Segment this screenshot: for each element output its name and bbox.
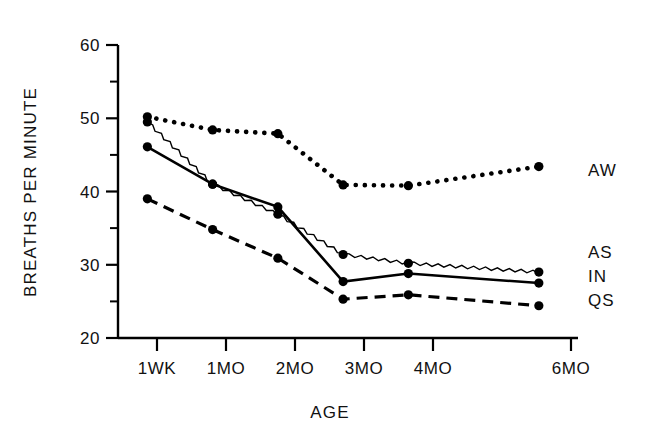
data-point — [534, 301, 543, 310]
data-point — [143, 142, 152, 151]
chart-figure: BREATHS PER MINUTE AGE 60 50 40 30 20 — [0, 0, 650, 441]
y-tick-label-40: 40 — [80, 183, 100, 202]
data-point — [208, 225, 217, 234]
data-point — [404, 259, 413, 268]
y-axis-title: BREATHS PER MINUTE — [21, 87, 40, 297]
data-point — [534, 162, 543, 171]
x-tick-label-1wk: 1WK — [138, 359, 177, 378]
x-tick-label-6mo: 6MO — [552, 359, 590, 378]
data-point — [404, 290, 413, 299]
data-point — [273, 202, 282, 211]
data-point — [339, 295, 348, 304]
data-point — [534, 278, 543, 287]
data-point — [339, 250, 348, 259]
data-point — [339, 277, 348, 286]
x-tick-label-1mo: 1MO — [207, 359, 245, 378]
y-tick-label-50: 50 — [80, 109, 100, 128]
series-label-in: IN — [588, 267, 607, 286]
x-tick-label-3mo: 3MO — [345, 359, 383, 378]
data-point — [273, 254, 282, 263]
series-label-aw: AW — [588, 161, 617, 180]
data-point — [404, 181, 413, 190]
data-point — [143, 194, 152, 203]
data-point — [534, 267, 543, 276]
x-tick-label-2mo: 2MO — [276, 359, 314, 378]
data-point — [273, 129, 282, 138]
x-tick-label-4mo: 4MO — [414, 359, 452, 378]
data-point — [339, 180, 348, 189]
data-point — [208, 125, 217, 134]
y-tick-label-30: 30 — [80, 256, 100, 275]
y-tick-label-20: 20 — [80, 329, 100, 348]
y-tick-label-60: 60 — [80, 36, 100, 55]
x-axis-title: AGE — [310, 403, 350, 422]
series-label-qs: QS — [588, 291, 615, 310]
data-point — [404, 269, 413, 278]
series-label-as: AS — [588, 243, 613, 262]
data-point — [143, 117, 152, 126]
data-point — [208, 180, 217, 189]
